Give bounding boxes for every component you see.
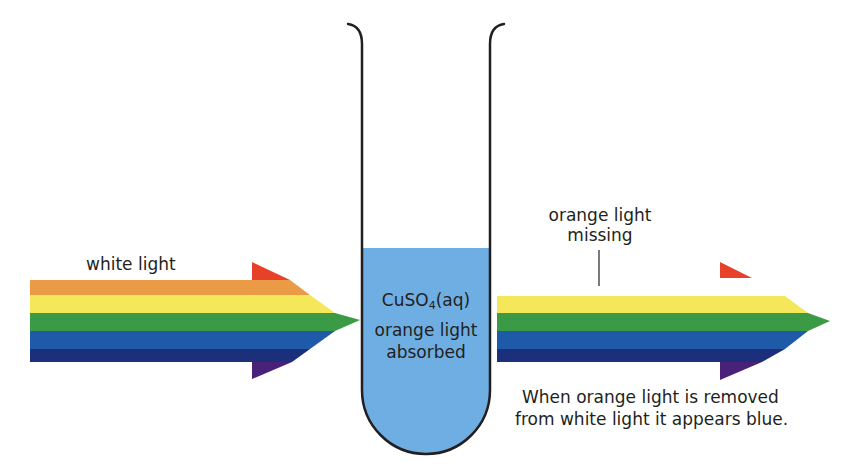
white-light-label: white light xyxy=(86,254,176,274)
missing-label-line-1: orange light xyxy=(530,205,670,225)
formula-state: (aq) xyxy=(436,290,470,310)
red-band xyxy=(252,262,290,280)
formula-subscript: 4 xyxy=(429,299,436,312)
yellow-band xyxy=(497,296,808,313)
violet-band xyxy=(252,362,292,379)
transmitted-light-arrow xyxy=(497,262,830,380)
tube-caption-line-1: orange light xyxy=(362,320,490,340)
green-band xyxy=(497,313,830,331)
navy-band xyxy=(30,349,310,362)
blue-band xyxy=(497,331,808,349)
test-tube xyxy=(348,24,504,454)
green-band xyxy=(30,313,360,331)
violet-band xyxy=(720,362,762,380)
conclusion-line-2: from white light it appears blue. xyxy=(515,409,788,429)
white-light-arrow xyxy=(30,262,360,379)
formula-main: CuSO xyxy=(382,290,429,310)
solution-formula-label: CuSO4(aq) xyxy=(362,290,490,310)
red-band xyxy=(720,262,752,278)
missing-label-line-2: missing xyxy=(530,225,670,245)
conclusion-line-1: When orange light is removed xyxy=(522,387,779,407)
blue-band xyxy=(30,331,335,349)
tube-caption-line-2: absorbed xyxy=(362,342,490,362)
yellow-band xyxy=(30,295,335,313)
navy-band xyxy=(497,349,785,362)
orange-band xyxy=(30,280,310,295)
